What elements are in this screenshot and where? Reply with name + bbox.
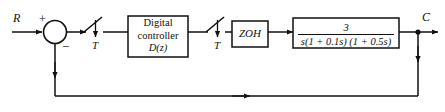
controller-line-1: Digital [128, 17, 188, 30]
summing-plus-sign: + [39, 13, 46, 25]
block-diagram-graphics [0, 0, 445, 112]
plant-numerator: 3 [343, 22, 348, 34]
zero-order-hold-label: ZOH [232, 27, 268, 40]
block-diagram-canvas: R + − T T Digital controller D(z) ZOH 3 … [0, 0, 445, 112]
plant-transfer-function: 3 s(1 + 0.1s) (1 + 0.5s) [294, 21, 398, 47]
input-signal-label: R [13, 12, 20, 24]
sampler-1-period-label: T [92, 40, 98, 51]
plant-denominator: s(1 + 0.1s) (1 + 0.5s) [301, 35, 391, 47]
sampler-2-blade [206, 17, 224, 32]
sampler-1-blade [84, 17, 102, 32]
output-signal-label: C [422, 11, 430, 23]
controller-transfer-label: D(z) [128, 42, 188, 55]
sampler-2-period-label: T [214, 40, 220, 51]
summing-minus-sign: − [62, 40, 69, 53]
feedback-takeoff-node [415, 29, 420, 34]
digital-controller-label: Digital controller D(z) [128, 17, 188, 55]
controller-line-2: controller [128, 30, 188, 43]
